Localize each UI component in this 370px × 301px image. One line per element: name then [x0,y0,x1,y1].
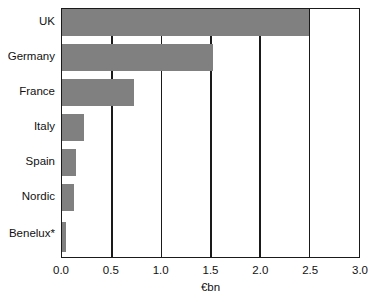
bar-row [62,9,309,36]
category-label-nordic: Nordic [22,183,55,210]
xtick-label-5: 2.5 [290,264,330,276]
bar-chart: UK Germany France Italy Spain Nordic Ben… [0,0,370,301]
bar-row [62,184,74,211]
category-label-uk: UK [39,8,55,35]
bar-france[interactable] [62,79,134,106]
category-label-benelux: Benelux* [9,220,55,247]
bar-row [62,114,84,141]
xtick-label-3: 1.5 [191,264,231,276]
bar-row [62,79,134,106]
plot-area [61,8,360,258]
bar-spain[interactable] [62,149,76,176]
bar-row [62,44,213,71]
bar-nordic[interactable] [62,184,74,211]
bar-italy[interactable] [62,114,84,141]
xtick-label-4: 2.0 [240,264,280,276]
x-axis-title: €bn [61,281,360,293]
bar-benelux[interactable] [62,222,66,252]
xtick-label-1: 0.5 [91,264,131,276]
xtick-label-6: 3.0 [340,264,370,276]
bars-layer [62,9,359,257]
category-label-france: France [19,78,55,105]
xtick-label-2: 1.0 [141,264,181,276]
bar-row [62,222,66,249]
category-label-germany: Germany [8,43,55,70]
bar-row [62,149,76,176]
category-label-spain: Spain [26,148,55,175]
bar-germany[interactable] [62,44,213,71]
xtick-label-0: 0.0 [41,264,81,276]
bar-uk[interactable] [62,9,309,36]
category-label-italy: Italy [34,113,55,140]
